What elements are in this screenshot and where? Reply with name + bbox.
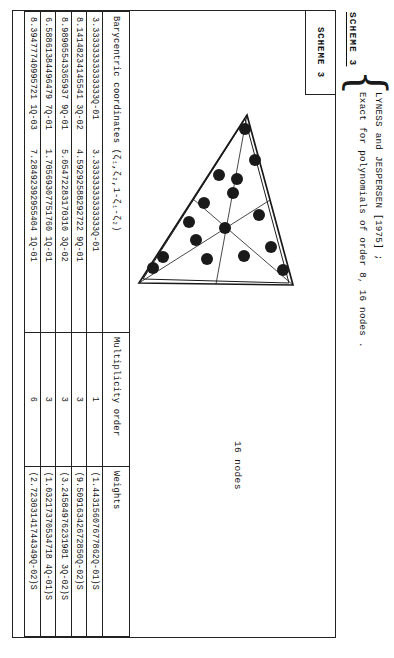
table-header-row: Barycentric coordinates (ζ₁,ζ₂,1-ζ₁-ζ₂) … [103,12,130,637]
table-row: 8.98905543365937 9Q-01 5.05472283170310 … [56,12,72,637]
cell-coordinates: 8.98905543365937 9Q-01 5.05472283170310 … [56,12,72,333]
column-header-weights: Weights [103,466,130,637]
node-point [238,250,250,262]
coordinate-zeta1: 8.39477740995721 1Q-03 [28,17,38,135]
triangle-diagram-svg [133,107,329,407]
cell-multiplicity: 3 [41,332,57,466]
cell-coordinates: 3.33333333333333Q-01 3.33333333333333Q-0… [87,12,103,333]
quadrature-table: Barycentric coordinates (ζ₁,ζ₂,1-ζ₁-ζ₂) … [25,11,131,637]
document-sheet: { LYNESS and JESPERSEN [1975] ; Exact fo… [0,0,394,658]
table-head: Barycentric coordinates (ζ₁,ζ₂,1-ζ₁-ζ₂) … [103,12,130,637]
column-header-multiplicity: Multiplicity order [103,332,130,466]
median-line-c [139,200,270,283]
node-point [239,123,251,135]
cell-weight: (3.24584976231981 3Q-02)S [56,466,72,637]
coordinate-zeta1: 8.98905543365937 9Q-01 [59,17,69,135]
node-point [277,264,289,276]
node-point [198,197,210,209]
table-row: 8.39477740995721 1Q-03 7.28492392955404 … [25,12,41,637]
node-point [249,154,261,166]
table-row: 3.33333333333333Q-01 3.33333333333333Q-0… [87,12,103,637]
content-frame: SCHEME 3 [12,10,336,638]
node-point [219,222,231,234]
cell-weight: (1.44315607677862Q-01)S [87,466,103,637]
citation-line-1: LYNESS and JESPERSEN [1975] ; [371,92,386,422]
cell-coordinates: 6.58861384496479 7Q-01 1.70569307751760 … [41,12,57,333]
cell-weight: (2.72303141744349Q-02)S [25,466,41,637]
node-point [157,251,169,263]
node-point [227,187,239,199]
cell-multiplicity: 3 [56,332,72,466]
scheme-box-label: SCHEME 3 [305,11,335,95]
table-row: 8.14148234145541 3Q-02 4.59292588292722 … [72,12,88,637]
cell-multiplicity: 1 [87,332,103,466]
nodes-caption: 16 nodes [232,441,243,490]
coordinate-zeta2: 7.28492392955404 1Q-01 [28,149,38,267]
node-point [201,253,213,265]
cell-multiplicity: 3 [72,332,88,466]
node-point [253,209,265,221]
coordinate-zeta2: 4.59292588292722 9Q-01 [74,149,84,267]
cell-weight: (9.50916342672850Q-02)S [72,466,88,637]
coordinate-zeta2: 1.70569307751760 1Q-01 [43,149,53,267]
node-point [147,262,159,274]
node-group [147,123,289,276]
cell-multiplicity: 6 [25,332,41,466]
node-point [231,173,243,185]
cell-coordinates: 8.39477740995721 1Q-03 7.28492392955404 … [25,12,41,333]
table-body: 3.33333333333333Q-01 3.33333333333333Q-0… [25,12,103,637]
coordinate-zeta2: 5.05472283170310 3Q-02 [59,149,69,267]
document-page: { LYNESS and JESPERSEN [1975] ; Exact fo… [0,0,394,658]
coordinate-zeta1: 8.14148234145541 3Q-02 [74,17,84,135]
page-title: SCHEME 3 [347,12,358,66]
citation-line-2: Exact for polynomials of order 8, 16 nod… [355,92,370,422]
coordinate-zeta1: 3.33333333333333Q-01 [90,17,100,135]
table-row: 6.58861384496479 7Q-01 1.70569307751760 … [41,12,57,637]
triangle-diagram [133,107,329,407]
coordinate-zeta1: 6.58861384496479 7Q-01 [43,17,53,135]
node-point [265,241,277,253]
cell-coordinates: 8.14148234145541 3Q-02 4.59292588292722 … [72,12,88,333]
node-point [213,169,225,181]
node-point [183,216,195,228]
column-header-coordinates: Barycentric coordinates (ζ₁,ζ₂,1-ζ₁-ζ₂) [103,12,130,333]
node-point [190,234,202,246]
citation-block: LYNESS and JESPERSEN [1975] ; Exact for … [355,92,386,422]
cell-weight: (1.03217370534718 4Q-01)S [41,466,57,637]
coordinate-zeta2: 3.33333333333333Q-01 [90,149,100,267]
